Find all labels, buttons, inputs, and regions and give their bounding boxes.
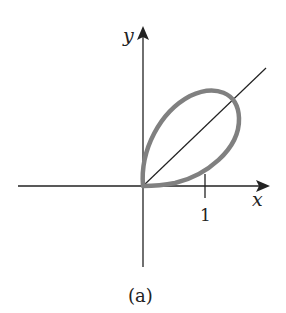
x-tick-label: 1: [200, 205, 211, 225]
figure: y x 1 (a): [0, 0, 286, 313]
y-axis-label: y: [122, 24, 134, 46]
x-axis-label: x: [252, 188, 263, 210]
figure-caption: (a): [128, 285, 153, 306]
